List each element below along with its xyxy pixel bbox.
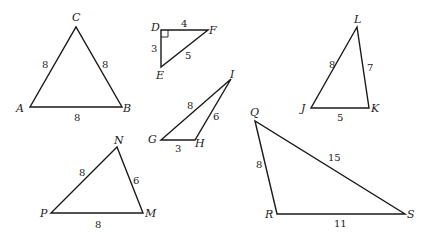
vertex-label-s: S [407, 208, 415, 221]
vertex-label-a: A [15, 102, 24, 115]
side-label-jk: 5 [337, 112, 343, 123]
vertex-label-q: Q [250, 106, 259, 119]
side-label-gh: 3 [175, 143, 181, 154]
triangle-jkl: L J K 8 7 5 [299, 13, 380, 123]
side-label-nm: 6 [133, 175, 139, 186]
vertex-label-l: L [353, 13, 361, 26]
side-label-ef: 5 [185, 50, 191, 61]
side-label-ac: 8 [42, 59, 48, 70]
triangle-mnp: N P M 8 6 8 [39, 134, 157, 230]
triangle-ghi-shape [161, 79, 231, 140]
right-angle-marker [161, 30, 168, 37]
triangle-jkl-shape [311, 27, 369, 108]
side-label-ab: 8 [74, 112, 80, 123]
triangle-qrs: Q R S 8 15 11 [250, 106, 415, 229]
vertex-label-n: N [113, 134, 124, 147]
vertex-label-m: M [144, 207, 157, 220]
triangle-def: D F E 4 3 5 [150, 18, 217, 82]
side-label-df: 4 [181, 18, 187, 29]
side-label-rs: 11 [334, 218, 347, 229]
side-label-de: 3 [151, 43, 157, 54]
triangles-diagram: C A B 8 8 8 D F E 4 3 5 I G H 8 6 3 L J … [0, 0, 430, 242]
triangle-mnp-shape [51, 147, 143, 213]
vertex-label-i: I [229, 68, 235, 81]
vertex-label-c: C [72, 11, 81, 24]
side-label-qs: 15 [328, 152, 341, 163]
vertex-label-k: K [370, 102, 380, 115]
triangle-qrs-shape [255, 121, 405, 214]
vertex-label-e: E [155, 69, 164, 82]
vertex-label-d: D [150, 21, 160, 34]
side-label-qr: 8 [256, 159, 262, 170]
vertex-label-h: H [194, 137, 205, 150]
side-label-jl: 8 [329, 59, 335, 70]
vertex-label-g: G [148, 133, 157, 146]
side-label-pn: 8 [79, 167, 85, 178]
vertex-label-f: F [208, 24, 217, 37]
vertex-label-b: B [122, 102, 131, 115]
side-label-bc: 8 [102, 59, 108, 70]
side-label-gi: 8 [187, 100, 193, 111]
vertex-label-p: P [39, 207, 48, 220]
side-label-pm: 8 [95, 219, 101, 230]
vertex-label-j: J [299, 102, 306, 115]
vertex-label-r: R [264, 208, 273, 221]
side-label-hi: 6 [213, 111, 219, 122]
side-label-kl: 7 [367, 62, 373, 73]
triangle-abc: C A B 8 8 8 [15, 11, 131, 123]
